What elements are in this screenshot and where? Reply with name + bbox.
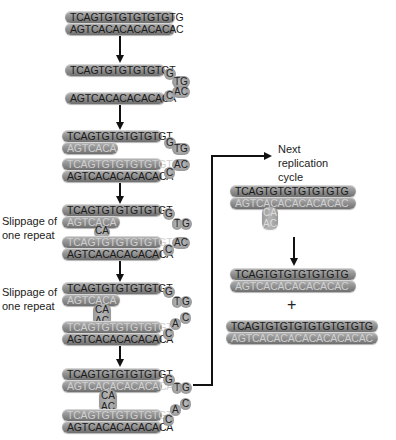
complement-strand: AGTCACACACACACA (62, 333, 162, 345)
next-cycle-label: Next replication cycle (278, 142, 348, 184)
tail-nt: C (163, 414, 174, 426)
arrowhead (116, 196, 124, 204)
loop-nt: AC (262, 218, 278, 229)
connector-line (211, 155, 265, 157)
arrowhead (116, 122, 124, 130)
tail-nt: C (180, 312, 191, 324)
complement-strand: AGTCACACACACACAC (65, 23, 175, 35)
expanded-top-strand: TCAGTGTGTGTGTGTGTGTG (226, 320, 378, 332)
template-strand: TCAGTGTGTGTGTGT (62, 130, 162, 142)
expanded-bottom-strand: AGTCACACACACACACACAC (226, 332, 378, 344)
arrowhead (290, 258, 298, 266)
slippage-label: Slippage of one repeat (2, 285, 62, 313)
complement-strand: AGTCACACACACACA (62, 248, 162, 260)
complement-strand: AGTCACACACACACA (62, 170, 162, 182)
new-strand: AGTCACACACACACAC (230, 197, 356, 209)
new-strand: AGTCACA (62, 216, 120, 228)
tail-nt: G (180, 296, 192, 308)
plus-sign: + (287, 296, 296, 314)
new-strand: AGTCACA (62, 294, 120, 306)
arrowhead-right (264, 152, 272, 160)
tail-nt: G (180, 382, 192, 394)
arrow-down-4 (119, 261, 121, 275)
connector-line (193, 384, 213, 386)
result-top-strand: TCAGTGTGTGTGTGTG (230, 268, 356, 280)
tail-nt: A (170, 404, 181, 416)
template-strand: TCAGTGTGTGTGTGT (65, 64, 165, 76)
new-strand: TCAGTGTGTGTGTGT (62, 321, 162, 333)
template-strand: TCAGTGTGTGTGTGT (62, 368, 162, 380)
loop-nt: CA (262, 207, 278, 218)
tail-nt: G (180, 218, 192, 230)
result-bottom-strand: AGTCACACACACACAC (230, 280, 356, 292)
tail-nt: C (164, 90, 175, 102)
template-strand: TCAGTGTGTGTGTGT (62, 204, 162, 216)
connector-line (211, 155, 213, 386)
arrowhead (116, 274, 124, 282)
new-strand: AGTCACA (62, 142, 118, 154)
arrowhead (116, 55, 124, 63)
new-strand: TCAGTGTGTGTGTGT (62, 236, 162, 248)
tail-nt: A (170, 318, 181, 330)
loop-out: CA AC (262, 207, 278, 229)
arrow-down-5 (119, 346, 121, 360)
template-strand: TCAGTGTGTGTGTGTG (65, 11, 175, 23)
arrowhead (116, 359, 124, 367)
new-strand: TCAGTGTGTGTGTGT (62, 158, 162, 170)
slippage-label: Slippage of one repeat (2, 214, 62, 242)
tail-nt: AC (172, 159, 190, 171)
arrow-down-3 (119, 183, 121, 197)
template-strand: TCAGTGTGTGTGTGTG (230, 185, 356, 197)
tail-nt: AC (172, 237, 190, 249)
template-strand: TCAGTGTGTGTGTGT (62, 282, 162, 294)
tail-nt: C (163, 328, 174, 340)
arrow-down-right (293, 237, 295, 259)
complement-strand: AGTCACACACACACA (62, 421, 162, 433)
tail-nt: C (180, 398, 191, 410)
loop-nt: CA (99, 390, 117, 401)
complement-strand: AGTCACACACACACA (65, 92, 165, 104)
loop-nt: CA (93, 304, 111, 315)
tail-nt: TG (172, 143, 190, 155)
new-strand: TCAGTGTGTGTGTGT (62, 409, 162, 421)
arrow-down-1 (119, 36, 121, 56)
arrow-down-2 (119, 105, 121, 123)
